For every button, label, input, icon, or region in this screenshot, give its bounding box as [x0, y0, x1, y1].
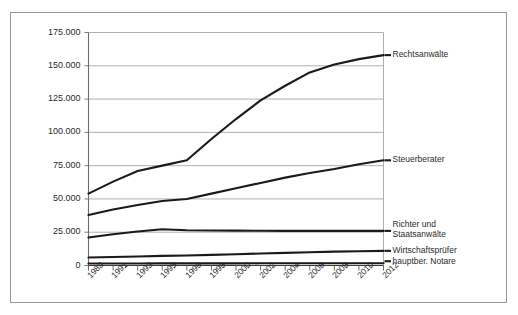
- legend-label: Wirtschaftsprüfer: [393, 245, 457, 255]
- y-axis-tick-label: 100.000: [33, 126, 81, 136]
- y-axis-tick-label: 25.000: [33, 226, 81, 236]
- series-line: [89, 160, 384, 215]
- legend-connectors: [385, 55, 392, 261]
- y-axis-tick-label: 75.000: [33, 160, 81, 170]
- legend-label: Steuerberater: [393, 154, 445, 164]
- y-axis-tick-label: 175.000: [33, 27, 81, 37]
- series-line: [89, 55, 384, 193]
- legend-label: hauptber. Notare: [393, 256, 456, 266]
- series-line: [89, 251, 384, 258]
- legend-label-line: Staatsanwälte: [393, 229, 446, 239]
- legend-label: Richter undStaatsanwälte: [393, 219, 446, 239]
- y-axis-tick-label: 150.000: [33, 60, 81, 70]
- y-axis-tick-label: 50.000: [33, 193, 81, 203]
- legend-label: Rechtsanwälte: [393, 49, 449, 59]
- y-axis-tick-label: 125.000: [33, 93, 81, 103]
- legend-label-line: Richter und: [393, 219, 446, 229]
- series-line: [89, 229, 384, 237]
- chart-figure: 025.00050.00075.000100.000125.000150.000…: [0, 0, 518, 315]
- y-axis-tick-label: 0: [33, 260, 81, 270]
